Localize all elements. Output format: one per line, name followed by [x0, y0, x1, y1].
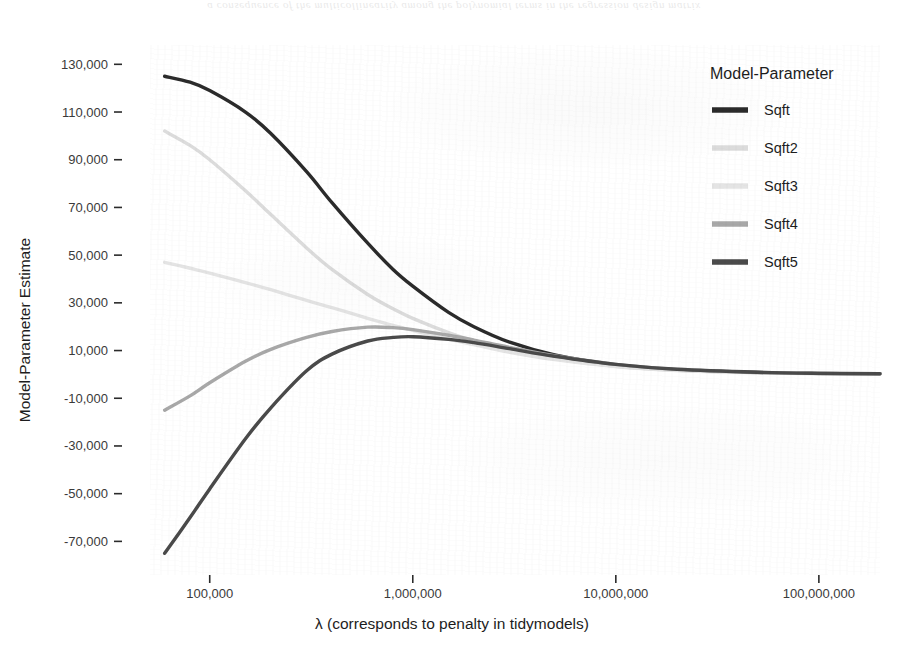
x-axis-tick-marks	[210, 575, 819, 583]
x-tick-label: 100,000,000	[783, 586, 855, 601]
legend-item-sqft2[interactable]: Sqft2	[712, 140, 798, 156]
y-tick-label: 10,000	[68, 343, 108, 358]
legend-item-label: Sqft	[764, 102, 790, 118]
y-tick-label: 110,000	[62, 105, 108, 120]
legend-item-label: Sqft4	[764, 216, 798, 232]
y-tick-label: -50,000	[64, 486, 108, 501]
x-axis-tick-labels: 100,0001,000,00010,000,000100,000,000	[186, 586, 855, 601]
y-tick-label: -30,000	[64, 438, 108, 453]
legend-item-label: Sqft5	[764, 254, 798, 270]
chart-legend: Model-Parameter SqftSqft2Sqft3Sqft4Sqft5	[710, 65, 834, 270]
y-axis-tick-marks	[114, 64, 122, 541]
legend-item-label: Sqft3	[764, 178, 798, 194]
legend-item-sqft5[interactable]: Sqft5	[712, 254, 798, 270]
y-tick-label: 130,000	[61, 57, 108, 72]
y-axis-tick-labels: 130,000110,00090,00070,00050,00030,00010…	[61, 57, 108, 549]
x-axis-title: λ (corresponds to penalty in tidymodels)	[315, 615, 589, 632]
y-tick-label: 70,000	[68, 200, 108, 215]
series-line-sqft4	[165, 327, 880, 410]
y-tick-label: 90,000	[68, 152, 108, 167]
x-tick-label: 10,000,000	[583, 586, 648, 601]
series-line-sqft3	[165, 262, 880, 374]
chart-figure: 130,000110,00090,00070,00050,00030,00010…	[0, 0, 908, 660]
y-axis-title: Model-Parameter Estimate	[16, 238, 33, 422]
y-tick-label: 50,000	[68, 248, 108, 263]
y-tick-label: -10,000	[64, 391, 108, 406]
x-tick-label: 100,000	[186, 586, 233, 601]
series-line-sqft5	[165, 337, 880, 554]
series-line-sqft2	[165, 131, 880, 374]
legend-item-sqft4[interactable]: Sqft4	[712, 216, 798, 232]
legend-item-sqft[interactable]: Sqft	[712, 102, 790, 118]
legend-entry-list: SqftSqft2Sqft3Sqft4Sqft5	[712, 102, 798, 270]
y-tick-label: 30,000	[68, 295, 108, 310]
y-tick-label: -70,000	[64, 534, 108, 549]
chart-canvas: 130,000110,00090,00070,00050,00030,00010…	[0, 0, 908, 660]
legend-item-sqft3[interactable]: Sqft3	[712, 178, 798, 194]
legend-title: Model-Parameter	[710, 65, 834, 82]
legend-item-label: Sqft2	[764, 140, 798, 156]
x-tick-label: 1,000,000	[384, 586, 442, 601]
